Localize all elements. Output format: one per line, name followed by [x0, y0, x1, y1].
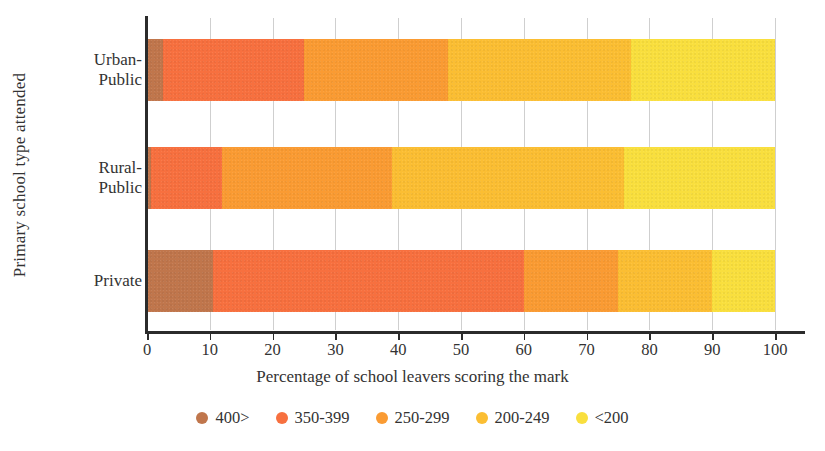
legend-label: <200 [595, 408, 629, 428]
x-axis-title: Percentage of school leavers scoring the… [0, 367, 825, 387]
bar-series-container [147, 18, 775, 330]
y-axis-tick-labels: Urban-PublicRural-PublicPrivate [46, 18, 142, 318]
bar-segment[interactable] [147, 250, 213, 312]
y-axis-tick-label: Private [46, 271, 142, 291]
stacked-bar-chart: Primary school type attended Urban-Publi… [0, 0, 825, 451]
x-axis-tick [775, 333, 777, 340]
x-axis-tick [147, 333, 149, 340]
x-axis-tick [335, 333, 337, 340]
bar-segment[interactable] [147, 39, 163, 101]
bar-segment[interactable] [304, 39, 448, 101]
bar-row[interactable] [147, 39, 775, 101]
x-axis-tick [524, 333, 526, 340]
x-axis-tick-label: 30 [327, 340, 344, 360]
legend-item[interactable]: 400> [196, 408, 249, 428]
x-axis-tick [461, 333, 463, 340]
plot-area [147, 18, 775, 330]
bar-segment[interactable] [524, 250, 618, 312]
y-axis-tick-label-line: Rural- [46, 158, 142, 178]
x-axis-tick [273, 333, 275, 340]
y-axis-title: Primary school type attended [10, 25, 30, 325]
legend-swatch-icon [576, 412, 588, 424]
legend-label: 200-249 [495, 408, 550, 428]
legend-swatch-icon [276, 412, 288, 424]
legend-swatch-icon [196, 412, 208, 424]
x-axis-tick-label: 10 [202, 340, 219, 360]
bar-segment[interactable] [618, 250, 712, 312]
x-axis-tick [712, 333, 714, 340]
x-axis-tick-label: 40 [390, 340, 407, 360]
bar-segment[interactable] [631, 39, 775, 101]
legend-item[interactable]: 250-299 [376, 408, 450, 428]
x-axis-tick-label: 100 [763, 340, 788, 360]
legend-swatch-icon [376, 412, 388, 424]
legend-label: 250-299 [395, 408, 450, 428]
x-axis-tick-label: 0 [143, 340, 151, 360]
legend-label: 400> [215, 408, 249, 428]
gridline [775, 18, 776, 330]
bar-segment[interactable] [222, 147, 392, 209]
legend-item[interactable]: <200 [576, 408, 629, 428]
bar-segment[interactable] [151, 147, 223, 209]
y-axis-tick-label-line: Urban- [46, 50, 142, 70]
legend-item[interactable]: 200-249 [476, 408, 550, 428]
bar-segment[interactable] [163, 39, 304, 101]
y-axis-tick-label-line: Public [46, 178, 142, 198]
x-axis-tick [587, 333, 589, 340]
x-axis-tick-label: 50 [453, 340, 470, 360]
x-axis-tick [649, 333, 651, 340]
x-axis-tick [398, 333, 400, 340]
x-axis-tick-label: 20 [264, 340, 281, 360]
legend-label: 350-399 [295, 408, 350, 428]
x-axis-tick-label: 90 [704, 340, 721, 360]
y-axis-tick-label-line: Public [46, 70, 142, 90]
bar-row[interactable] [147, 147, 775, 209]
legend-item[interactable]: 350-399 [276, 408, 350, 428]
bar-segment[interactable] [392, 147, 624, 209]
x-axis-tick-label: 70 [578, 340, 595, 360]
x-axis-tick-label: 60 [516, 340, 533, 360]
x-axis-tick-label: 80 [641, 340, 658, 360]
bar-segment[interactable] [213, 250, 524, 312]
x-axis-ticks [147, 333, 775, 340]
bar-segment[interactable] [624, 147, 775, 209]
bar-row[interactable] [147, 250, 775, 312]
legend-swatch-icon [476, 412, 488, 424]
bar-segment[interactable] [448, 39, 630, 101]
x-axis-tick-labels: 0102030405060708090100 [147, 340, 775, 362]
y-axis-line [145, 16, 148, 332]
y-axis-tick-label-line: Private [46, 271, 142, 291]
legend: 400>350-399250-299200-249<200 [0, 408, 825, 428]
bar-segment[interactable] [712, 250, 775, 312]
y-axis-tick-label: Urban-Public [46, 50, 142, 90]
x-axis-tick [210, 333, 212, 340]
y-axis-tick-label: Rural-Public [46, 158, 142, 198]
